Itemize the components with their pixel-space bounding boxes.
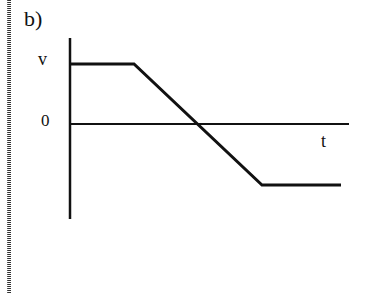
velocity-time-graph — [0, 0, 368, 293]
